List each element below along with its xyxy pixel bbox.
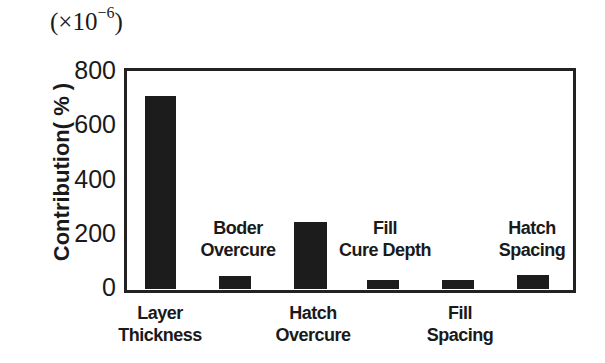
bar-fill-spacing xyxy=(442,280,474,289)
category-label-layer-thickness: Layer Thickness xyxy=(90,302,230,346)
y-tick-400: 400 xyxy=(46,167,116,192)
y-tick-800: 800 xyxy=(46,58,116,83)
category-label-fill-spacing: Fill Spacing xyxy=(390,302,530,346)
category-label-fill-cure-depth: Fill Cure Depth xyxy=(315,217,455,261)
bar-hatch-spacing xyxy=(517,275,549,289)
bar-boder-overcure xyxy=(219,276,251,289)
category-label-boder-overcure: Boder Overcure xyxy=(168,217,308,261)
y-tick-0: 0 xyxy=(46,275,116,300)
bar-fill-cure-depth xyxy=(367,280,399,289)
category-label-hatch-overcure: Hatch Overcure xyxy=(243,302,383,346)
y-tick-600: 600 xyxy=(46,112,116,137)
y-multiplier: (×10−6) xyxy=(50,8,123,36)
category-label-hatch-spacing: Hatch Spacing xyxy=(462,217,602,261)
y-tick-200: 200 xyxy=(46,221,116,246)
